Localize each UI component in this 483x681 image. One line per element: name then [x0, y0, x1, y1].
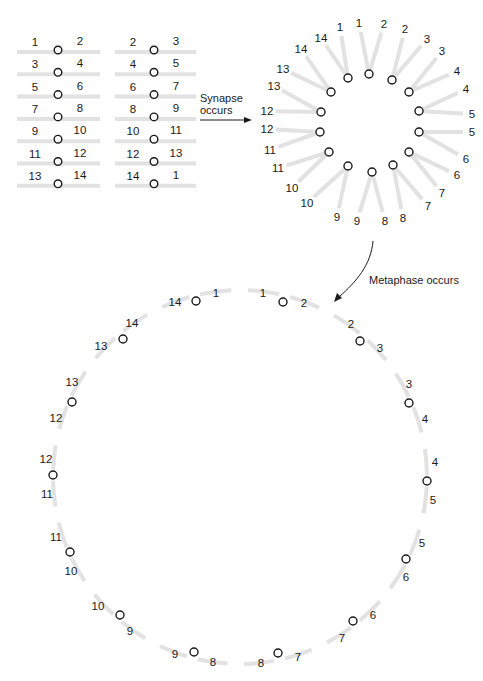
- arm-label: 7: [425, 200, 431, 212]
- centromere-icon: [150, 113, 158, 121]
- chromosome-arm: [276, 111, 321, 112]
- metaphase-label: Metaphase occurs: [369, 274, 459, 286]
- centromere-icon: [54, 46, 62, 54]
- arm-label: 7: [439, 187, 445, 199]
- paired-chromosome: 910: [17, 124, 100, 143]
- chromosome-arm: [419, 132, 458, 155]
- arm-label: 7: [295, 651, 301, 663]
- arm-label: 4: [432, 456, 439, 468]
- arm-label: 6: [463, 153, 469, 165]
- centromere-icon: [279, 298, 287, 306]
- arm-label-right: 11: [170, 124, 182, 136]
- centromere-icon: [344, 162, 352, 170]
- centromere-icon: [356, 337, 364, 345]
- arm-label: 8: [258, 657, 264, 669]
- chromosome-arm: [423, 487, 426, 514]
- arm-label: 2: [381, 18, 387, 30]
- arm-label-left: 3: [32, 58, 38, 70]
- arm-label-left: 7: [32, 103, 38, 115]
- chromosome-arm: [282, 90, 321, 112]
- centromere-icon: [192, 297, 200, 305]
- ring-chromosome-junction: 23: [348, 318, 383, 354]
- paired-chromosome: 45: [115, 57, 196, 76]
- centromere-icon: [150, 158, 158, 166]
- arm-label-left: 11: [29, 148, 41, 160]
- centromere-icon: [327, 88, 335, 96]
- arm-label: 14: [295, 43, 308, 55]
- arm-label: 12: [50, 412, 63, 424]
- chromosome-arm: [276, 130, 320, 132]
- paired-chromosome: 67: [115, 80, 196, 99]
- arm-label: 5: [419, 537, 425, 549]
- arm-label: 6: [370, 609, 376, 621]
- centromere-icon: [68, 398, 76, 406]
- arm-label-left: 8: [130, 103, 136, 115]
- arm-label-right: 13: [170, 147, 183, 159]
- ring-chromosome-junction: 67: [339, 609, 376, 644]
- arm-label: 1: [260, 287, 266, 299]
- translocation-ring-diagram: 12345678910111213142345678910111213141 S…: [0, 0, 483, 681]
- synapse-label-line1: Synapse: [200, 92, 243, 104]
- arm-label: 8: [382, 215, 388, 227]
- rosette-chromosome: 89: [354, 168, 388, 227]
- paired-chromosome: 141: [115, 169, 196, 188]
- centromere-icon: [415, 128, 423, 136]
- arm-label-right: 9: [173, 102, 179, 114]
- arm-label: 13: [66, 376, 79, 388]
- arm-label: 12: [40, 453, 53, 465]
- arm-label-right: 8: [77, 102, 83, 114]
- arm-label: 2: [402, 23, 408, 35]
- arm-label-left: 5: [32, 81, 38, 93]
- arm-label-right: 14: [74, 169, 87, 181]
- arm-label: 1: [337, 21, 343, 33]
- centromere-icon: [344, 74, 352, 82]
- arm-label: 11: [272, 162, 284, 174]
- metaphase-arrow-curve: [339, 241, 373, 297]
- arm-label: 9: [334, 211, 340, 223]
- centromere-icon: [54, 69, 62, 77]
- arm-label-right: 7: [173, 80, 179, 92]
- paired-chromosome: 89: [115, 102, 196, 121]
- rosette-chromosome: 1314: [277, 43, 335, 96]
- centromere-icon: [54, 180, 62, 188]
- arm-label: 5: [430, 494, 436, 506]
- centromere-icon: [150, 135, 158, 143]
- arm-label: 5: [469, 126, 475, 138]
- centromere-icon: [405, 88, 413, 96]
- arm-label: 11: [50, 531, 62, 543]
- arm-label: 13: [277, 63, 290, 75]
- centromere-icon: [316, 128, 324, 136]
- arm-label: 4: [422, 413, 429, 425]
- arm-label-left: 2: [130, 36, 136, 48]
- metaphase-ring: 14112233445566778899101011111212131314: [40, 287, 439, 669]
- chromosome-arm: [122, 622, 146, 638]
- paired-chromosome: 1213: [115, 147, 196, 166]
- arm-label-left: 9: [32, 125, 38, 137]
- arm-label: 14: [126, 317, 139, 329]
- centromere-icon: [49, 471, 57, 479]
- synapse-rosette: 12233445566778899101011111212131314141: [261, 17, 476, 227]
- centromere-icon: [423, 477, 431, 485]
- rosette-chromosome: 1112: [261, 123, 324, 156]
- arm-label-left: 13: [29, 170, 42, 182]
- arm-label-right: 5: [173, 57, 179, 69]
- ring-chromosome-junction: 78: [258, 649, 301, 669]
- paired-chromosome: 23: [115, 35, 196, 54]
- arm-label: 11: [41, 488, 53, 500]
- synapse-label-line2: occurs: [200, 104, 233, 116]
- arm-label-right: 12: [74, 147, 87, 159]
- arm-label: 9: [354, 215, 360, 227]
- chromosome-arm: [361, 32, 369, 74]
- centromere-icon: [415, 107, 423, 115]
- centromere-icon: [54, 113, 62, 121]
- chromosome-arm: [372, 172, 383, 212]
- arm-label: 12: [261, 105, 274, 117]
- chromosome-arm: [53, 481, 55, 507]
- arm-label-left: 1: [32, 36, 38, 48]
- ring-chromosome-junction: 910: [92, 600, 134, 637]
- centromere-icon: [54, 135, 62, 143]
- arm-label: 4: [454, 65, 461, 77]
- centromere-icon: [405, 399, 413, 407]
- centromere-icon: [150, 69, 158, 77]
- centromere-icon: [368, 168, 376, 176]
